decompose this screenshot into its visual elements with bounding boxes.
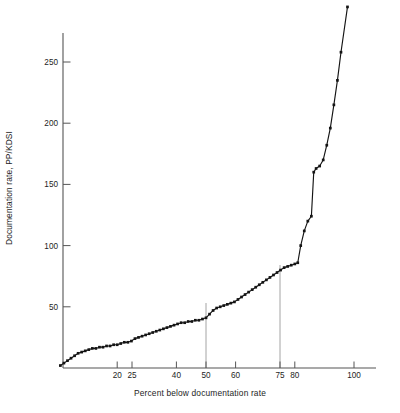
data-point-8 (87, 348, 90, 351)
data-point-62 (279, 269, 282, 272)
data-point-76 (325, 144, 328, 147)
x-tick-label-20: 20 (113, 371, 122, 380)
data-series-markers (59, 6, 349, 367)
data-point-44 (215, 307, 218, 310)
data-point-6 (80, 351, 83, 354)
data-point-28 (158, 329, 161, 332)
data-point-1 (63, 362, 66, 365)
data-point-74 (318, 165, 321, 168)
data-point-2 (66, 359, 69, 362)
x-tick-label-80: 80 (290, 371, 299, 380)
x-tick-label-40: 40 (172, 371, 181, 380)
data-point-59 (269, 276, 272, 279)
data-point-65 (290, 264, 293, 267)
data-point-66 (293, 263, 296, 266)
x-tick-label-100: 100 (347, 371, 361, 380)
data-point-29 (162, 327, 165, 330)
data-point-71 (310, 215, 313, 218)
data-point-11 (98, 346, 101, 349)
y-tick-label-200: 200 (44, 119, 58, 128)
x-axis-ticks (117, 362, 354, 369)
data-point-64 (286, 265, 289, 268)
y-tick-label-250: 250 (44, 58, 58, 67)
x-tick-label-60: 60 (231, 371, 240, 380)
data-point-68 (299, 244, 302, 247)
data-point-70 (306, 220, 309, 223)
data-point-49 (233, 301, 236, 304)
data-point-0 (59, 364, 62, 367)
data-point-60 (272, 274, 275, 277)
reference-lines (206, 265, 280, 368)
y-tick-label-50: 50 (49, 302, 58, 311)
data-point-37 (190, 320, 193, 323)
x-tick-label-50: 50 (201, 371, 210, 380)
data-point-35 (183, 321, 186, 324)
data-point-25 (148, 332, 151, 335)
data-point-57 (261, 281, 264, 284)
data-point-15 (112, 343, 115, 346)
data-point-56 (258, 283, 261, 286)
data-point-26 (151, 331, 154, 334)
data-point-67 (296, 261, 299, 264)
data-point-73 (315, 167, 318, 170)
data-point-78 (333, 103, 336, 106)
data-point-4 (73, 354, 76, 357)
data-point-32 (173, 324, 176, 327)
data-point-17 (119, 342, 122, 345)
chart-plot-area (0, 0, 400, 413)
data-point-61 (276, 271, 279, 274)
data-series-line (60, 7, 347, 366)
data-point-40 (201, 318, 204, 321)
data-point-46 (222, 304, 225, 307)
chart-figure: Documentation rate, PP/KDSI Percent belo… (0, 0, 400, 413)
data-point-9 (91, 347, 94, 350)
data-point-10 (95, 347, 98, 350)
data-point-33 (176, 323, 179, 326)
data-point-48 (230, 302, 233, 305)
data-point-22 (137, 336, 140, 339)
data-point-63 (283, 266, 286, 269)
data-point-43 (212, 309, 215, 312)
data-point-75 (322, 159, 325, 162)
data-point-38 (194, 319, 197, 322)
data-point-27 (155, 330, 158, 333)
data-point-54 (251, 288, 254, 291)
data-point-47 (226, 303, 229, 306)
data-point-24 (144, 334, 147, 337)
y-axis-label-container: Documentation rate, PP/KDSI (0, 0, 18, 413)
data-point-21 (134, 337, 137, 340)
data-point-14 (109, 345, 112, 348)
y-axis-label: Documentation rate, PP/KDSI (4, 131, 14, 245)
data-point-50 (237, 298, 240, 301)
data-point-19 (127, 341, 130, 344)
data-point-18 (123, 341, 126, 344)
data-point-41 (205, 316, 208, 319)
data-point-12 (102, 346, 105, 349)
data-point-81 (346, 6, 349, 9)
data-point-3 (70, 357, 73, 360)
data-point-7 (84, 350, 87, 353)
data-point-45 (219, 305, 222, 308)
data-point-53 (247, 291, 250, 294)
data-point-34 (180, 321, 183, 324)
data-point-55 (254, 286, 257, 289)
data-point-39 (198, 319, 201, 322)
data-point-5 (77, 352, 80, 355)
y-tick-label-100: 100 (44, 241, 58, 250)
data-point-30 (166, 326, 169, 329)
y-tick-label-150: 150 (44, 180, 58, 189)
x-tick-label-25: 25 (127, 371, 136, 380)
x-axis-label: Percent below documentation rate (0, 388, 400, 398)
data-point-31 (169, 325, 172, 328)
data-point-77 (329, 127, 332, 130)
data-point-79 (336, 79, 339, 82)
data-point-58 (265, 279, 268, 282)
data-point-20 (130, 340, 133, 343)
data-point-51 (240, 296, 243, 299)
y-axis-ticks (63, 62, 71, 307)
data-point-42 (208, 313, 211, 316)
data-point-13 (105, 345, 108, 348)
data-point-80 (340, 51, 343, 54)
data-point-23 (141, 335, 144, 338)
data-point-52 (244, 293, 247, 296)
